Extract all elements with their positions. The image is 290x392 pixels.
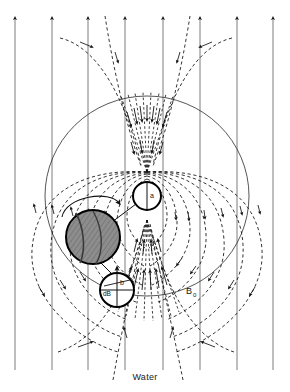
b0-label-subscript: 0 [193,292,197,298]
arrow-r1 [258,205,260,213]
ray-arrow-u8 [131,142,134,153]
sweep-arrow-7 [78,342,92,347]
sweep-arrow-5 [124,328,127,338]
arrow-l1 [34,205,36,213]
sweep-arrow-6 [170,328,173,338]
sphere-body [66,210,120,264]
arrow-r8 [229,280,234,288]
ray-arrow-u5 [152,106,154,121]
ray-arrow-d5 [156,270,159,288]
ray-arrow-u3 [140,106,142,121]
circle-a-label: a [150,192,154,199]
arrow-r3 [221,208,223,216]
ray-u2 [128,94,147,172]
sweep-4 [153,38,232,165]
ray-arrow-d8 [143,241,144,254]
arrow-r11 [177,258,182,265]
arrow-r6 [175,212,176,219]
dipole-line-r1 [147,172,262,352]
sweep-3 [60,38,141,165]
arrow-l3 [71,208,73,216]
ray-arrow-u7 [163,112,167,126]
ray-arrow-d2 [134,270,138,288]
shaded-sphere [66,210,120,264]
circle-a: a [133,182,161,210]
ray-arrow-u9 [140,140,142,152]
delta-b-label: dB [103,290,111,297]
ray-arrow-d3 [142,271,144,290]
sweep-arrow-2 [177,52,180,62]
dipole-field-lines-right [147,172,262,352]
arrow-l6 [39,287,44,295]
b0-field-label: B 0 [186,286,197,298]
sweep-arrow-1 [115,52,118,62]
sweep-arrow-8 [202,342,215,347]
arrow-r5 [188,212,189,220]
ray-arrow-u11 [160,142,163,153]
circle-b-label: b [120,279,124,286]
medium-caption: Water [0,372,290,382]
ray-arrow-d7 [134,240,137,252]
diagram-canvas: a b dB B 0 [0,0,290,392]
converging-ray-arrowheads-upper [127,105,167,153]
ray-arrow-d10 [158,240,161,252]
ray-arrow-u2 [134,108,137,123]
sweep-6 [150,226,183,380]
arrow-l7 [60,280,65,288]
connector-sphere-to-circle-a [112,204,136,222]
arrow-r4 [204,210,205,218]
magnetic-field-diagram: a b dB B 0 Water [0,0,290,392]
arrow-r7 [250,287,255,295]
sweep-arrow-3 [80,42,92,47]
ray-arrow-d9 [151,241,152,254]
b0-label-main: B [186,286,192,296]
arrow-r2 [240,206,242,214]
converging-rays-upper [121,92,173,172]
ray-u8 [147,96,173,172]
ray-arrow-d4 [150,271,151,290]
sweep-arrow-4 [200,42,212,47]
ray-arrow-u6 [157,108,160,123]
ray-arrow-u10 [152,140,154,152]
